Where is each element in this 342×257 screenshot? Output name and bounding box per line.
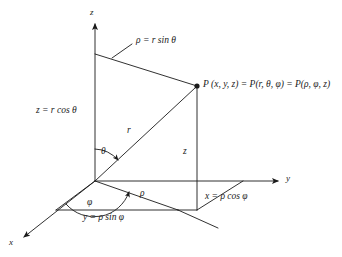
theta-label: θ bbox=[101, 147, 106, 157]
x-equation-label: x = ρ cos φ bbox=[205, 192, 248, 202]
y-equation-label: y = ρ sin φ bbox=[83, 213, 124, 223]
z-height-label: z bbox=[183, 147, 187, 157]
point-p-marker bbox=[194, 83, 199, 88]
radius-line bbox=[95, 88, 195, 181]
rho-equation-leader bbox=[112, 44, 132, 58]
rho-equation-label: ρ = r sin θ bbox=[136, 36, 176, 46]
y-axis-label: y bbox=[286, 174, 290, 183]
rho-extension-line bbox=[178, 210, 218, 228]
rho-top-line bbox=[95, 54, 197, 86]
coordinate-diagram-figure: z y x ρ = r sin θ z = r cos θ P (x, y, z… bbox=[0, 0, 342, 257]
z-equation-label: z = r cos θ bbox=[36, 106, 77, 116]
phi-label: φ bbox=[87, 198, 92, 208]
theta-arc bbox=[95, 149, 118, 160]
rho-label: ρ bbox=[140, 189, 145, 199]
rho-line bbox=[95, 181, 178, 210]
point-p-label: P (x, y, z) = P(r, θ, φ) = P(ρ, φ, z) bbox=[203, 80, 330, 90]
z-axis-label: z bbox=[90, 8, 94, 17]
radius-label: r bbox=[127, 126, 131, 136]
x-axis-label: x bbox=[9, 238, 13, 247]
